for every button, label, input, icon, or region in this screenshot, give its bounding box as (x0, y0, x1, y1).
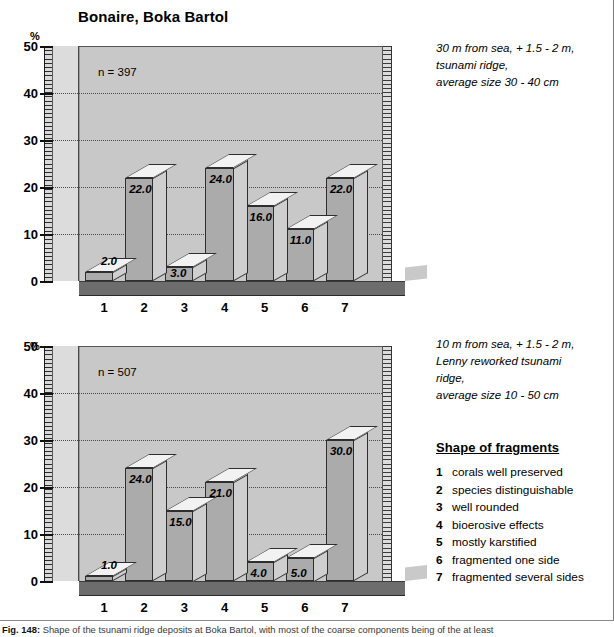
legend-heading: Shape of fragments (436, 440, 608, 455)
note-line: 10 m from sea, + 1.5 - 2 m, (436, 336, 574, 353)
figure-panel: Bonaire, Boka Bartol % n = 397 010203040… (0, 0, 614, 620)
y-tick-label: 10 (12, 527, 38, 542)
legend-item-5: 5mostly karstified (436, 534, 608, 552)
note-line: average size 10 - 50 cm (436, 387, 574, 404)
bar-value-label: 15.0 (169, 516, 191, 528)
y-axis-top (44, 46, 53, 281)
bar-5[interactable]: 16.0 (246, 206, 274, 281)
note-line: 30 m from sea, + 1.5 - 2 m, (436, 40, 574, 57)
plot-floor (79, 281, 405, 296)
bar-value-label: 5.0 (291, 567, 307, 579)
bar-6[interactable]: 5.0 (286, 558, 314, 582)
note-top: 30 m from sea, + 1.5 - 2 m,tsunami ridge… (436, 40, 574, 91)
plot-area-top: n = 397 010203040502.0122.023.0324.0416.… (44, 46, 392, 281)
bar-6[interactable]: 11.0 (286, 229, 314, 281)
bar-7[interactable]: 22.0 (326, 178, 354, 281)
bar-7[interactable]: 30.0 (326, 440, 354, 581)
legend-item-label: corals well preserved (452, 464, 563, 482)
bar-value-label: 16.0 (250, 211, 272, 223)
figure-caption: Fig. 148: Shape of the tsunami ridge dep… (2, 624, 614, 635)
legend-item-label: mostly karstified (452, 534, 537, 552)
y-tick-mark (40, 187, 53, 189)
bar-value-label: 11.0 (290, 234, 312, 246)
sample-size-bottom: n = 507 (98, 366, 137, 378)
y-tick-mark (40, 93, 53, 95)
bar-side-face (234, 474, 248, 581)
bar-3[interactable]: 15.0 (165, 511, 193, 582)
note-bottom: 10 m from sea, + 1.5 - 2 m,Lenny reworke… (436, 336, 574, 404)
bar-side-face (234, 160, 248, 281)
bar-1[interactable]: 2.0 (85, 272, 113, 281)
legend-item-label: well rounded (452, 499, 519, 517)
legend-item-number: 6 (436, 552, 452, 570)
legend-item-1: 1corals well preserved (436, 464, 608, 482)
x-tick-label-4: 4 (205, 600, 245, 615)
bar-side-face (153, 170, 167, 281)
legend-item-4: 4bioerosive effects (436, 517, 608, 535)
plot-floor (79, 581, 405, 596)
y-axis-bottom (44, 346, 53, 581)
bar-value-label: 3.0 (170, 267, 186, 279)
bar-5[interactable]: 4.0 (246, 562, 274, 581)
legend-item-2: 2species distinguishable (436, 482, 608, 500)
bar-value-label: 2.0 (101, 255, 117, 279)
y-tick-label: 0 (12, 574, 38, 589)
plot-left-wall (53, 46, 79, 281)
y-tick-mark (40, 346, 53, 348)
plot-area-bottom: n = 507 010203040501.0124.0215.0321.044.… (44, 346, 392, 581)
x-tick-label-1: 1 (84, 300, 124, 315)
note-line: ridge, (436, 370, 574, 387)
bar-front-face (326, 440, 354, 581)
y-tick-label: 50 (12, 339, 38, 354)
legend-item-number: 2 (436, 482, 452, 500)
bar-1[interactable]: 1.0 (85, 576, 113, 581)
bar-side-face (153, 460, 167, 581)
plot-floor-side (405, 265, 427, 281)
x-tick-label-7: 7 (325, 600, 365, 615)
legend-item-label: fragmented several sides (452, 569, 584, 587)
x-tick-label-1: 1 (84, 600, 124, 615)
bar-value-label: 22.0 (330, 183, 352, 195)
y-tick-mark (40, 534, 53, 536)
legend-item-3: 3well rounded (436, 499, 608, 517)
bar-side-face (354, 170, 368, 281)
bar-3[interactable]: 3.0 (165, 267, 193, 281)
legend-item-number: 5 (436, 534, 452, 552)
x-tick-label-2: 2 (124, 600, 164, 615)
x-tick-label-7: 7 (325, 300, 365, 315)
gridline (53, 93, 382, 94)
legend-item-number: 4 (436, 517, 452, 535)
legend-item-label: fragmented one side (452, 552, 560, 570)
legend-item-number: 7 (436, 569, 452, 587)
bar-value-label: 4.0 (251, 567, 267, 579)
note-line: Lenny reworked tsunami (436, 353, 574, 370)
y-tick-label: 40 (12, 86, 38, 101)
gridline (53, 140, 382, 141)
y-tick-mark (40, 140, 53, 142)
plot-right-wall (382, 346, 392, 581)
y-tick-mark (40, 393, 53, 395)
y-tick-label: 40 (12, 386, 38, 401)
legend-item-number: 1 (436, 464, 452, 482)
y-tick-mark (40, 440, 53, 442)
y-tick-mark (40, 487, 53, 489)
bar-side-face (274, 198, 288, 281)
sample-size-top: n = 397 (98, 66, 137, 78)
x-tick-label-6: 6 (285, 600, 325, 615)
bar-side-face (193, 502, 207, 581)
note-line: average size 30 - 40 cm (436, 74, 574, 91)
figure-caption-text: Shape of the tsunami ridge deposits at B… (43, 624, 494, 635)
plot-floor-side (405, 565, 427, 581)
x-tick-label-6: 6 (285, 300, 325, 315)
y-tick-label: 30 (12, 433, 38, 448)
bar-4[interactable]: 24.0 (205, 168, 233, 281)
bar-value-label: 1.0 (101, 559, 117, 579)
bar-2[interactable]: 22.0 (125, 178, 153, 281)
x-tick-label-3: 3 (164, 600, 204, 615)
legend: Shape of fragments 1corals well preserve… (436, 440, 608, 587)
y-tick-mark (40, 234, 53, 236)
note-line: tsunami ridge, (436, 57, 574, 74)
y-tick-label: 30 (12, 133, 38, 148)
x-tick-label-3: 3 (164, 300, 204, 315)
x-tick-label-5: 5 (245, 300, 285, 315)
